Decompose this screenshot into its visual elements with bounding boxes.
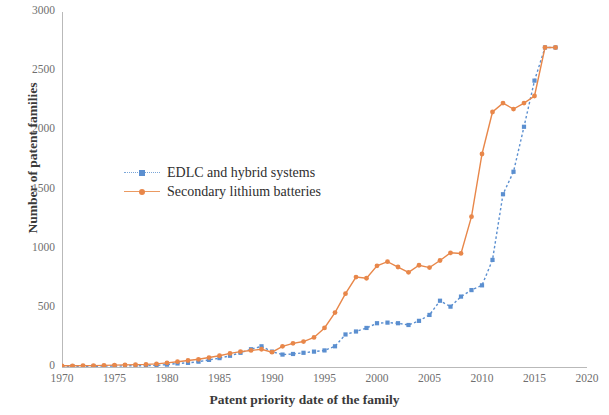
chart-legend: EDLC and hybrid systems Secondary lithiu… (124, 163, 321, 201)
x-tick-1975: 1975 (93, 372, 137, 384)
data-point (469, 288, 473, 292)
square-marker-icon (124, 167, 160, 179)
data-point (312, 335, 317, 340)
data-point (469, 214, 474, 219)
data-point (511, 170, 515, 174)
legend-item-edlc: EDLC and hybrid systems (124, 163, 321, 182)
data-point (501, 101, 506, 106)
data-point (354, 275, 359, 280)
data-point (501, 192, 505, 196)
data-point (186, 358, 191, 363)
data-point (375, 263, 380, 268)
data-point (427, 265, 432, 270)
data-point (81, 363, 86, 367)
data-point (438, 258, 443, 263)
data-point (438, 299, 442, 303)
data-point (385, 259, 390, 264)
y-axis-title: Number of patent families (25, 43, 41, 273)
series-line (62, 48, 556, 367)
data-point (207, 355, 212, 360)
data-point (291, 341, 296, 346)
data-point (102, 363, 107, 367)
data-point (417, 263, 422, 268)
data-point (322, 348, 326, 352)
x-tick-1985: 1985 (198, 372, 242, 384)
data-point (312, 350, 316, 354)
patent-families-line-chart: 050010001500200025003000 197019751980198… (0, 0, 609, 415)
data-point (522, 125, 526, 129)
x-tick-1995: 1995 (303, 372, 347, 384)
data-point (480, 152, 485, 157)
data-point (354, 329, 358, 333)
x-axis-title: Patent priority date of the family (0, 392, 609, 408)
data-point (511, 107, 516, 112)
data-point (91, 363, 96, 367)
data-point (553, 45, 558, 50)
data-point (532, 94, 537, 99)
series-line (62, 48, 556, 366)
x-tick-1990: 1990 (250, 372, 294, 384)
data-point (196, 357, 201, 362)
data-point (543, 45, 548, 50)
series-lithium (62, 45, 558, 367)
data-point (291, 352, 295, 356)
data-point (448, 250, 453, 255)
data-point (259, 347, 264, 352)
legend-label-edlc: EDLC and hybrid systems (167, 165, 315, 181)
data-point (228, 351, 233, 356)
data-point (448, 305, 452, 309)
data-point (175, 359, 180, 364)
data-point (144, 362, 149, 367)
data-point (280, 344, 285, 349)
data-point (112, 363, 117, 367)
series-edlc (62, 45, 558, 367)
legend-item-lithium: Secondary lithium batteries (124, 182, 321, 201)
data-point (406, 323, 410, 327)
y-tick-500: 500 (0, 300, 55, 312)
data-point (154, 362, 159, 367)
x-axis-line (62, 367, 587, 368)
x-tick-2015: 2015 (513, 372, 557, 384)
data-point (322, 326, 327, 331)
data-point (301, 339, 306, 344)
data-point (123, 362, 128, 367)
data-point (364, 276, 369, 281)
data-point (385, 321, 389, 325)
data-point (532, 79, 536, 83)
y-tick-3000: 3000 (0, 4, 55, 16)
data-point (301, 351, 305, 355)
data-point (333, 310, 338, 315)
data-point (217, 353, 222, 358)
legend-label-lithium: Secondary lithium batteries (167, 184, 321, 200)
data-point (490, 258, 494, 262)
x-tick-1970: 1970 (40, 372, 84, 384)
x-tick-2005: 2005 (408, 372, 452, 384)
data-point (249, 348, 254, 353)
data-point (270, 350, 275, 355)
data-point (396, 321, 400, 325)
data-point (165, 360, 170, 365)
data-point (333, 344, 337, 348)
data-point (364, 326, 368, 330)
data-point (490, 110, 495, 115)
x-tick-2010: 2010 (460, 372, 504, 384)
data-point (133, 362, 138, 367)
data-point (406, 270, 411, 275)
data-point (343, 332, 347, 336)
x-tick-2000: 2000 (355, 372, 399, 384)
circle-marker-icon (124, 186, 160, 198)
x-tick-2020: 2020 (565, 372, 609, 384)
data-point (459, 251, 464, 256)
data-point (522, 101, 527, 106)
data-point (62, 363, 64, 367)
data-point (427, 313, 431, 317)
data-point (459, 294, 463, 298)
data-point (70, 363, 75, 367)
y-tick-0: 0 (0, 359, 55, 371)
data-point (396, 265, 401, 270)
data-point (280, 352, 284, 356)
data-point (480, 283, 484, 287)
data-point (417, 319, 421, 323)
data-point (238, 349, 243, 354)
data-point (343, 291, 348, 296)
